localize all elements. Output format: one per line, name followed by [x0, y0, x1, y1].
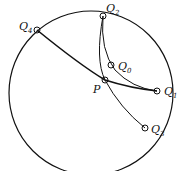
label-q1: Q1 [164, 85, 178, 100]
label-q4: Q4 [19, 20, 33, 35]
boundary-circle [9, 11, 173, 171]
geodesic-q4-q1 [37, 30, 157, 91]
label-q3: Q3 [151, 123, 165, 138]
label-p: P [92, 83, 101, 96]
label-q2: Q2 [106, 2, 120, 17]
diagram-canvas: Q4 Q2 Q0 P Q1 Q3 [0, 0, 180, 171]
geodesic-q2-q1 [103, 16, 158, 91]
geodesic-diagram: Q4 Q2 Q0 P Q1 Q3 [0, 0, 180, 171]
label-q0: Q0 [118, 60, 132, 75]
